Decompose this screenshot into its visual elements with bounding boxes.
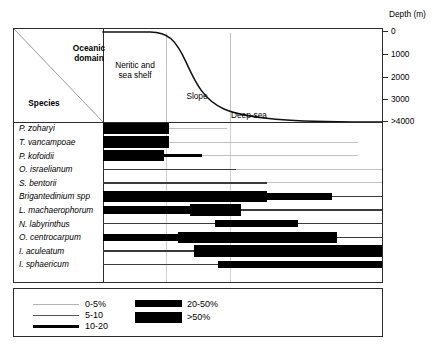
abundance-segment	[103, 234, 178, 242]
species-label: S. bentorii	[19, 179, 56, 187]
legend-label-over-50: >50%	[187, 313, 210, 322]
legend-swatch-over-50	[135, 312, 182, 323]
abundance-segment	[215, 220, 299, 228]
abundance-segment	[337, 237, 382, 239]
depth-tick-2000: 2000	[391, 73, 409, 81]
legend-label-20-50: 20-50%	[187, 300, 218, 309]
abundance-segment	[164, 154, 202, 157]
abundance-segment	[190, 204, 241, 216]
abundance-segment	[103, 136, 169, 148]
abundance-segment	[103, 169, 236, 171]
abundance-segment	[298, 223, 382, 225]
species-label: P. kofoidii	[19, 152, 54, 160]
depth-tick-0: 0	[391, 27, 396, 35]
zone-label-deepsea: Deep-sea	[219, 111, 279, 121]
abundance-segment	[178, 232, 336, 244]
abundance-segment	[332, 196, 382, 198]
abundance-segment	[202, 155, 358, 156]
legend-swatch-5-10	[33, 315, 79, 316]
species-label: I. aculeatum	[19, 247, 64, 255]
abundance-segment	[241, 209, 382, 211]
legend-swatch-0-5	[33, 304, 79, 305]
species-label: P. zoharyi	[19, 124, 55, 132]
abundance-segment	[267, 193, 332, 201]
abundance-segment	[103, 191, 267, 203]
corner-species-label: Species	[9, 99, 79, 109]
depth-tick-1000: 1000	[391, 50, 409, 58]
abundance-segment	[103, 264, 218, 266]
zone-label-neritic-line2: sea shelf	[104, 71, 166, 81]
species-label: T. vancampoae	[19, 138, 75, 146]
legend-label-0-5: 0-5%	[85, 300, 106, 309]
zone-label-slope: Slope	[167, 92, 227, 102]
dinocyst-depth-distribution-figure: Depth (m) 0 1000 2000 3000 >4000 Oceanic…	[0, 0, 443, 344]
species-label: O. centrocarpum	[19, 233, 81, 241]
abundance-segment	[103, 223, 215, 225]
abundance-segment	[103, 150, 164, 162]
abundance-segment	[169, 142, 357, 143]
abundance-segment	[267, 182, 382, 183]
abundance-segment	[236, 169, 382, 170]
species-label: L. machaerophorum	[19, 206, 93, 214]
species-label: I. sphaericum	[19, 260, 69, 268]
legend-label-5-10: 5-10	[85, 311, 103, 320]
abundance-segment	[194, 245, 382, 257]
species-label: Brigantedinium spp	[19, 192, 90, 200]
abundance-segment	[103, 182, 267, 184]
depth-tick-4000: >4000	[391, 117, 414, 125]
legend-label-10-20: 10-20	[85, 322, 108, 331]
species-label: O. israelianum	[19, 165, 73, 173]
depth-tick-3000: 3000	[391, 95, 409, 103]
legend-swatch-20-50	[135, 300, 182, 307]
abundance-segment	[103, 250, 194, 252]
abundance-segment	[103, 123, 169, 135]
legend-swatch-10-20	[33, 325, 79, 328]
abundance-segment	[218, 261, 382, 269]
abundance-segment	[103, 206, 190, 214]
species-label: N. labyrinthus	[19, 220, 70, 228]
abundance-segment	[169, 128, 227, 129]
